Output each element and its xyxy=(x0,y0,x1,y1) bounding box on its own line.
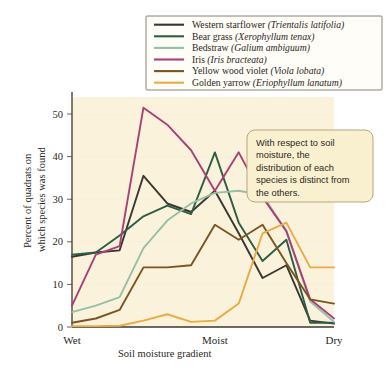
legend-scientific-name: (Viola lobata) xyxy=(270,65,324,77)
legend-common-name: Yellow wood violet xyxy=(192,65,268,76)
legend-scientific-name: (Iris bracteata) xyxy=(207,54,266,66)
y-tick-label-20: 20 xyxy=(53,236,64,247)
legend-label-golden-yarrow: Golden yarrow (Eriophyllum lanatum) xyxy=(192,77,342,89)
callout-line-2: moisture, the xyxy=(256,150,310,160)
legend-label-bedstraw: Bedstraw (Galium ambiguum) xyxy=(192,42,310,54)
x-category-label-dry: Dry xyxy=(325,334,343,346)
legend-common-name: Iris xyxy=(192,54,205,65)
y-tick-label-10: 10 xyxy=(53,279,64,290)
callout-line-5: the others. xyxy=(256,188,300,198)
species-distribution-line-chart: 01020304050 WetMoistDry Soil moisture gr… xyxy=(0,0,387,378)
legend-label-yellow-wood-violet: Yellow wood violet (Viola lobata) xyxy=(192,65,324,77)
legend-scientific-name: (Xerophyllum tenax) xyxy=(235,31,315,43)
y-tick-label-30: 30 xyxy=(53,194,64,205)
legend-common-name: Bear grass xyxy=(192,31,233,42)
legend-label-western-starflower: Western starflower (Trientalis latifolia… xyxy=(192,19,344,31)
legend-scientific-name: (Trientalis latifolia) xyxy=(268,19,345,31)
y-tick-label-40: 40 xyxy=(53,151,64,162)
y-tick-label-0: 0 xyxy=(58,322,63,333)
x-category-label-wet: Wet xyxy=(63,334,80,346)
callout-line-3: distribution of each xyxy=(256,163,334,173)
legend-common-name: Bedstraw xyxy=(192,42,229,53)
callout-line-1: With respect to soil xyxy=(256,138,335,148)
y-axis-title-line-2: which species was found xyxy=(36,147,47,252)
chart-figure: 01020304050 WetMoistDry Soil moisture gr… xyxy=(0,0,387,378)
annotation-callout: With respect to soilmoisture, thedistrib… xyxy=(247,130,373,202)
y-tick-label-50: 50 xyxy=(53,109,64,120)
callout-line-4: species is distinct from xyxy=(256,175,350,185)
legend-common-name: Golden yarrow xyxy=(192,77,250,88)
legend-scientific-name: (Eriophyllum lanatum) xyxy=(253,77,342,89)
chart-legend: Western starflower (Trientalis latifolia… xyxy=(146,16,382,90)
y-axis-title-line-1: Percent of quadrats on xyxy=(22,153,33,248)
x-axis-title: Soil moisture gradient xyxy=(118,348,211,359)
x-category-label-moist: Moist xyxy=(202,334,228,346)
legend-common-name: Western starflower xyxy=(192,19,266,30)
legend-label-bear-grass: Bear grass (Xerophyllum tenax) xyxy=(192,31,315,43)
legend-scientific-name: (Galium ambiguum) xyxy=(231,42,310,54)
legend-label-iris: Iris (Iris bracteata) xyxy=(192,54,267,66)
